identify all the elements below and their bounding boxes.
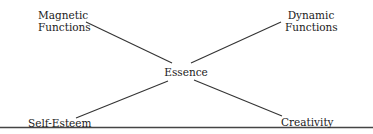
node-creativity: Creativity bbox=[281, 116, 334, 128]
connector-dynamic-essence bbox=[191, 22, 281, 63]
node-self-esteem: Self-Esteem bbox=[28, 117, 91, 129]
connector-magnetic-essence bbox=[86, 22, 172, 63]
node-label-line2: Functions bbox=[38, 21, 88, 33]
node-dynamic-functions: Dynamic Functions bbox=[285, 9, 337, 33]
x-diagram: Magnetic Functions Dynamic Functions Ess… bbox=[0, 0, 373, 134]
connector-creativity-essence bbox=[194, 80, 282, 116]
node-label-line2: Functions bbox=[285, 21, 337, 33]
center-node-essence: Essence bbox=[156, 66, 216, 78]
connector-selfesteem-essence bbox=[76, 81, 168, 118]
node-label-line1: Magnetic bbox=[38, 9, 88, 21]
node-label-line1: Dynamic bbox=[285, 9, 337, 21]
node-magnetic-functions: Magnetic Functions bbox=[38, 9, 88, 33]
